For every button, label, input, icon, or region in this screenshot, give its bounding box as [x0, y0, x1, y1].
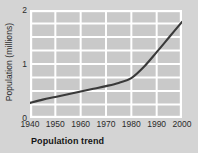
y-tick-label: 1	[13, 60, 27, 69]
x-tick-label: 2000	[167, 120, 197, 129]
y-tick-label: 2	[13, 6, 27, 15]
x-axis-tick-labels: 1940195019601970198019902000	[0, 120, 198, 132]
plot-svg	[30, 10, 182, 118]
plot-area	[30, 10, 182, 118]
population-trend-chart: Population (millions) 012 19401950196019…	[0, 0, 198, 153]
chart-caption: Population trend	[31, 136, 104, 146]
